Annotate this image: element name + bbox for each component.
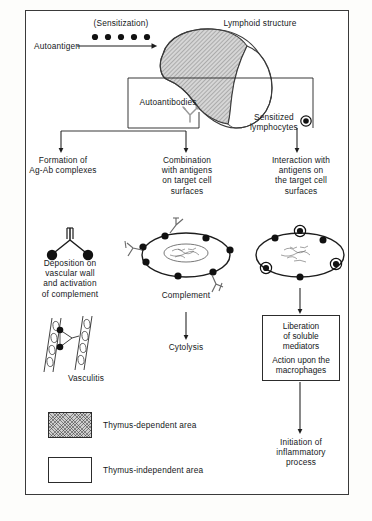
figure-canvas: Autoantigen (Sensitization) Lymphoid str… [0, 0, 372, 521]
autoantigen-label: Autoantigen [34, 41, 94, 51]
deposition-caption: Deposition on vascular wall and activati… [22, 258, 118, 299]
mediators-box-line-1: Liberation of soluble mediators [283, 321, 319, 352]
vasculitis-caption: Vasculitis [46, 373, 126, 383]
legend-swatch-thymus-dependent [48, 412, 92, 438]
column-heading-middle: Combination with antigens on target cell… [147, 155, 227, 196]
complement-caption: Complement [146, 290, 226, 300]
column-heading-right: Interaction with antigens on the target … [257, 155, 345, 196]
mediators-box: Liberation of soluble mediators Action u… [262, 315, 340, 381]
lymphoid-structure-label: Lymphoid structure [205, 18, 315, 28]
autoantibodies-label: Autoantibodies [123, 97, 213, 107]
legend-swatch-thymus-independent [48, 457, 92, 483]
column-heading-left: Formation of Ag-Ab complexes [18, 155, 108, 175]
cytolysis-caption: Cytolysis [150, 342, 222, 352]
sensitized-lymphocytes-label: Sensitized lymphocytes [243, 112, 305, 132]
inflammatory-process-caption: Initiation of inflammatory process [259, 437, 343, 468]
legend-label-thymus-independent: Thymus-independent area [103, 465, 263, 475]
mediators-box-line-2: Action upon the macrophages [272, 355, 330, 375]
legend-label-thymus-dependent: Thymus-dependent area [103, 420, 253, 430]
sensitization-label: (Sensitization) [77, 18, 165, 28]
